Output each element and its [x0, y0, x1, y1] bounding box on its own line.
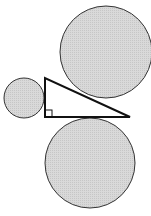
small-circle-left — [4, 78, 44, 118]
large-circle-bottom — [45, 118, 135, 208]
triangle-circles-diagram — [0, 0, 151, 216]
large-circle-top-right — [60, 6, 151, 98]
